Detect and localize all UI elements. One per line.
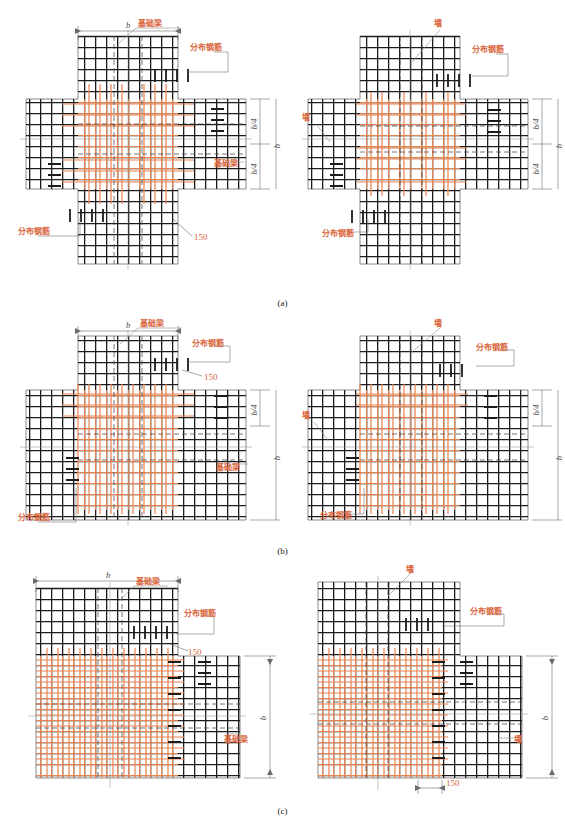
dim-right-total: b — [554, 144, 564, 148]
label-distribution-rebar-left: 分布钢筋 — [18, 226, 50, 236]
label-foundation-beam-right: 基础梁 — [215, 462, 241, 472]
panel-a-left: b b/4 b/4 b 基础梁 分布钢筋 基础梁 分布钢筋 150 — [18, 14, 283, 289]
dimension-150-bottom — [415, 780, 445, 794]
panel-c-caption: (c) — [0, 800, 565, 818]
label-wall-left: 墙 — [302, 112, 310, 122]
caption-b: (b) — [277, 546, 288, 556]
label-wall-top: 墙 — [406, 564, 414, 574]
label-distribution-rebar-right: 分布钢筋 — [476, 342, 508, 352]
dim-right-upper: b/4 — [249, 404, 259, 416]
panel-a-caption: (a) — [0, 292, 565, 310]
dim-right-lower: b/4 — [531, 163, 541, 175]
dim-right-lower: b/4 — [249, 163, 259, 175]
leader-distribution-rebar-right — [472, 54, 508, 76]
label-150: 150 — [194, 232, 208, 242]
leader-distribution-rebar-right — [176, 616, 214, 634]
panel-b-right: b/4 b 墙 分布钢筋 墙 分布钢筋 — [300, 318, 565, 533]
rebar-mesh-orange — [318, 656, 442, 778]
dim-top-b: b — [106, 570, 110, 580]
label-wall-left: 墙 — [302, 410, 310, 420]
dim-right-total: b — [272, 144, 282, 148]
dim-right-total: b — [554, 456, 564, 460]
panel-b-left: b b/4 b 基础梁 分布钢筋 150 基础梁 分布钢筋 — [18, 318, 283, 533]
label-distribution-rebar-left: 分布钢筋 — [18, 512, 50, 522]
panel-c-left: b b 基础梁 分布钢筋 150 基础梁 — [18, 566, 283, 796]
leader-distribution-rebar-right — [188, 346, 230, 362]
dim-top-b: b — [126, 320, 130, 330]
dim-right-upper: b/4 — [531, 118, 541, 130]
leader-150 — [182, 370, 202, 376]
label-distribution-rebar-right: 分布钢筋 — [192, 338, 224, 348]
dim-right-upper: b/4 — [249, 118, 259, 130]
label-foundation-beam-top: 基础梁 — [135, 576, 161, 586]
label-wall-top: 墙 — [434, 318, 442, 328]
label-foundation-beam-right: 基础梁 — [213, 158, 239, 168]
panel-a-right: b/4 b/4 b 墙 分布钢筋 墙 分布钢筋 — [300, 14, 565, 289]
label-150: 150 — [204, 372, 218, 382]
label-distribution-rebar-right: 分布钢筋 — [472, 44, 504, 54]
label-wall-right: 墙 — [514, 734, 522, 744]
label-wall-top: 墙 — [434, 18, 442, 28]
label-distribution-rebar-bottom: 分布钢筋 — [320, 510, 352, 520]
dim-right-total: b — [258, 716, 268, 720]
dim-right-total: b — [540, 716, 550, 720]
label-150: 150 — [188, 647, 202, 657]
panel-b-caption: (b) — [0, 540, 565, 558]
label-distribution-rebar-bottom: 分布钢筋 — [322, 228, 354, 238]
dim-top-b: b — [126, 20, 130, 30]
label-150-bottom: 150 — [446, 778, 460, 788]
label-foundation-beam-right: 基础梁 — [223, 734, 249, 744]
caption-c: (c) — [278, 806, 288, 816]
leader-distribution-rebar-right — [188, 52, 228, 72]
caption-a: (a) — [278, 298, 288, 308]
label-distribution-rebar-right: 分布钢筋 — [190, 42, 222, 52]
leader-distribution-rebar-right — [476, 350, 514, 366]
label-foundation-beam-top: 基础梁 — [137, 18, 163, 28]
dim-right-total: b — [272, 456, 282, 460]
label-foundation-beam-top: 基础梁 — [139, 318, 165, 328]
panel-c-right: b 墙 分布钢筋 墙 150 — [300, 566, 565, 796]
dim-right-upper: b/4 — [531, 404, 541, 416]
label-distribution-rebar-right: 分布钢筋 — [184, 608, 216, 618]
label-distribution-rebar-right: 分布钢筋 — [470, 606, 502, 616]
